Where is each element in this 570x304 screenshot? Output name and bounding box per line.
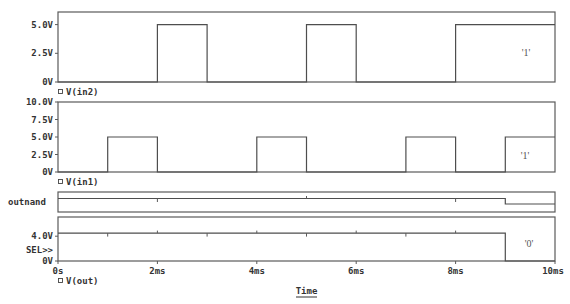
legend-label-in1[interactable]: V(in1) (66, 177, 99, 187)
selected-axis-marker: SEL>> (26, 245, 54, 255)
y-tick-label: 10.0V (26, 97, 54, 107)
legend-label-in2[interactable]: V(in2) (66, 87, 99, 97)
x-tick-label: 0s (53, 266, 64, 276)
plot-panel-out: 4.0V SEL>> 0V '0' (26, 217, 555, 266)
x-axis-title[interactable]: Time (296, 286, 318, 296)
cursor-value-in1: '1' (521, 150, 530, 161)
x-tick-label: 4ms (249, 266, 265, 276)
y-tick-label: 4.0V (31, 231, 53, 241)
waveform-out (58, 233, 555, 261)
waveform-in1 (58, 137, 555, 172)
plot-panel-in1: 10.0V 7.5V 5.0V 2.5V 0V '1' V(in1) (26, 97, 555, 187)
cursor-value-out: '0' (525, 238, 534, 249)
square-outline-icon (59, 180, 63, 184)
legend-item-out[interactable]: V(out) (59, 276, 99, 286)
legend-item-in2[interactable]: V(in2) (59, 87, 99, 97)
x-tick-label: 10ms (542, 266, 564, 276)
plot-frame-outnand (58, 192, 555, 212)
plot-panel-in2: 5.0V 2.5V 0V '1' V(in2) (31, 12, 555, 97)
y-tick-label: 0V (42, 77, 53, 87)
y-tick-label: 2.5V (31, 48, 53, 58)
y-tick-label: 5.0V (31, 132, 53, 142)
y-tick-label: 2.5V (31, 150, 53, 160)
y-tick-label: 5.0V (31, 20, 53, 30)
y-tick-label: 7.5V (31, 115, 53, 125)
x-axis: 0s 2ms 4ms 6ms 8ms 10ms V(out) Time (53, 261, 564, 297)
digital-signal-label-outnand[interactable]: outnand (8, 197, 46, 207)
x-tick-label: 2ms (149, 266, 165, 276)
waveform-in2 (58, 25, 555, 82)
plot-panel-outnand: outnand (8, 192, 555, 212)
legend-item-in1[interactable]: V(in1) (59, 177, 99, 187)
y-tick-label: 0V (42, 167, 53, 177)
probe-plot-window: 5.0V 2.5V 0V '1' V(in2) 10.0V 7.5V 5.0V … (0, 0, 570, 304)
waveform-outnand (58, 199, 555, 205)
legend-label-out[interactable]: V(out) (66, 276, 99, 286)
y-tick-label: 0V (42, 256, 53, 266)
square-outline-icon (59, 90, 63, 94)
plot-frame-out (58, 217, 555, 261)
x-tick-label: 8ms (447, 266, 463, 276)
x-tick-label: 6ms (348, 266, 364, 276)
cursor-value-in2: '1' (522, 47, 531, 58)
square-outline-icon (59, 279, 63, 283)
